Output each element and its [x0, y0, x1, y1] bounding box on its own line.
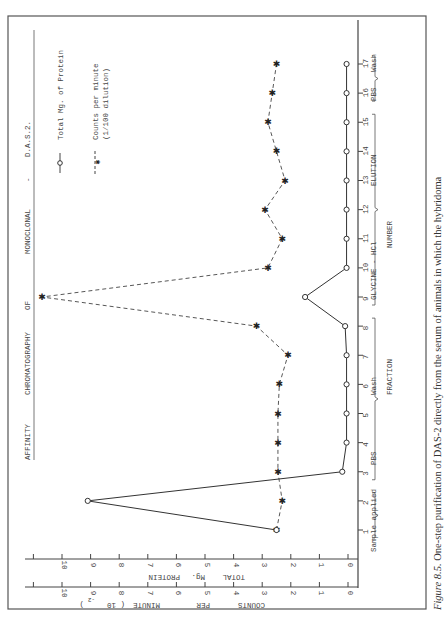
- caption-text: One-step purification of DAS-2 directly …: [432, 176, 443, 563]
- fraction-tick-label: 10: [362, 262, 370, 272]
- cpm-axis-label-per: PER: [196, 601, 210, 609]
- cpm-axis-label-paren-close: ): [79, 601, 84, 609]
- cpm-axis-ticks: 012345678910: [33, 582, 354, 598]
- phase-elution-label: ELUTION: [370, 154, 378, 186]
- cpm-star-marker-icon: ✱: [278, 496, 286, 506]
- cpm-axis-label-counts: COUNTS: [237, 601, 265, 609]
- protein-circle-marker-icon: [344, 411, 349, 416]
- protein-circle-marker-icon: [344, 353, 349, 358]
- protein-circle-marker-icon: [344, 207, 349, 212]
- cpm-star-marker-icon: ✱: [273, 59, 281, 69]
- protein-tick-label: 10: [60, 560, 68, 570]
- protein-tick-label: 8: [117, 563, 125, 568]
- fraction-tick-label: 8: [362, 326, 370, 331]
- fraction-tick-label: 6: [362, 383, 370, 388]
- title-word-affinity: AFFINITY: [24, 423, 32, 460]
- cpm-tick-label: 8: [117, 591, 125, 596]
- title-word-chromatography: CHROMATOGRAPHY: [24, 331, 32, 395]
- figure-frame: [8, 16, 426, 609]
- protein-circle-marker-icon: [344, 440, 349, 445]
- protein-tick-label: 0: [346, 563, 354, 568]
- cpm-star-marker-icon: ✱: [264, 263, 272, 273]
- cpm-line: [42, 64, 288, 530]
- fraction-tick-label: 15: [362, 117, 370, 127]
- title-word-das2: D.A.S.2.: [24, 121, 32, 157]
- protein-circle-marker-icon: [344, 178, 349, 183]
- cpm-tick-label: 10: [60, 588, 68, 598]
- cpm-star-marker-icon: ✱: [253, 321, 261, 331]
- protein-circle-marker-icon: [85, 498, 90, 503]
- fraction-tick-label: 17: [362, 59, 370, 68]
- fraction-axis-label-fraction: FRACTION: [386, 359, 394, 395]
- phase-elution-glycine: GLYCINE - HCl: [370, 241, 378, 300]
- protein-circle-marker-icon: [303, 294, 308, 299]
- cpm-axis-label-paren-open: ( 10: [106, 601, 125, 609]
- protein-tick-label: 9: [89, 563, 97, 568]
- cpm-axis-label-exponent: -2: [87, 596, 95, 603]
- cpm-star-marker-icon: ✱: [261, 205, 269, 215]
- cpm-star-marker-icon: ✱: [281, 176, 289, 186]
- protein-circle-marker-icon: [344, 382, 349, 387]
- cpm-star-marker-icon: ✱: [278, 234, 286, 244]
- protein-circle-marker-icon: [344, 236, 349, 241]
- cpm-star-marker-icon: ✱: [274, 467, 282, 477]
- legend-star-icon: ✱: [93, 159, 102, 164]
- fraction-tick-label: 14: [362, 146, 370, 156]
- cpm-star-marker-icon: ✱: [264, 117, 272, 127]
- legend: Total Mg. of Protein ✱ Counts per minute…: [57, 50, 110, 174]
- fraction-tick-label: 9: [362, 296, 370, 301]
- phase-pbs-wash-2-pbs: PBS: [370, 87, 378, 101]
- phase-pbs-wash-1-pbs: PBS: [370, 451, 378, 465]
- fraction-axis-label-number: NUMBER: [386, 220, 394, 248]
- protein-tick-label: 7: [146, 563, 154, 568]
- legend-circle-icon: [58, 161, 63, 166]
- cpm-tick-label: 5: [203, 591, 211, 596]
- fraction-tick-label: 4: [362, 442, 370, 447]
- protein-tick-label: 3: [260, 563, 268, 568]
- protein-axis-label-total: TOTAL: [222, 573, 245, 581]
- cpm-tick-label: 9: [89, 591, 97, 596]
- protein-axis-ticks: 012345678910: [33, 554, 354, 570]
- title-word-of: OF: [24, 301, 32, 310]
- cpm-star-marker-icon: ✱: [268, 88, 276, 98]
- fraction-tick-label: 12: [362, 205, 370, 214]
- protein-circle-marker-icon: [340, 469, 345, 474]
- phase-pbs-wash-1-wash: Wash: [370, 377, 378, 395]
- protein-circle-marker-icon: [344, 149, 349, 154]
- cpm-tick-label: 1: [317, 591, 325, 596]
- fraction-tick-label: 11: [362, 233, 370, 243]
- fraction-axis-ticks: 1234567891011121314151617: [358, 59, 370, 534]
- protein-circle-marker-icon: [344, 91, 349, 96]
- cpm-tick-label: 3: [260, 591, 268, 596]
- cpm-star-marker-icon: ✱: [274, 438, 282, 448]
- protein-tick-label: 6: [174, 563, 182, 568]
- protein-axis-label-protein: PROTEIN: [148, 573, 180, 581]
- chromatography-chart: 1234567891011121314151617 012345678910 0…: [0, 0, 448, 621]
- cpm-star-marker-icon: ✱: [276, 379, 284, 389]
- cpm-star-marker-icon: ✱: [284, 350, 292, 360]
- cpm-star-marker-icon: ✱: [38, 292, 46, 302]
- cpm-tick-label: 0: [346, 591, 354, 596]
- cpm-tick-label: 4: [232, 591, 240, 596]
- protein-tick-label: 1: [317, 563, 325, 568]
- series-total-protein: [85, 61, 349, 532]
- legend-cpm-label-2: (1/100 dilution): [102, 68, 110, 140]
- protein-axis-label-mg: Mg.: [191, 573, 205, 581]
- cpm-tick-label: 6: [174, 591, 182, 596]
- protein-circle-marker-icon: [344, 265, 349, 270]
- fraction-tick-label: 1: [362, 529, 370, 534]
- title-word-monoclonal: MONOCLONAL: [24, 208, 32, 254]
- figure-caption: Figure 8.5. One-step purification of DAS…: [432, 176, 443, 611]
- protein-tick-label: 5: [203, 563, 211, 568]
- cpm-tick-label: 7: [146, 591, 154, 596]
- fraction-tick-label: 2: [362, 500, 370, 505]
- cpm-star-marker-icon: ✱: [274, 409, 282, 419]
- series-counts-per-minute: ✱✱✱✱✱✱✱✱✱✱✱✱✱✱✱✱✱: [38, 59, 292, 535]
- protein-circle-marker-icon: [343, 324, 348, 329]
- legend-cpm-label-1: Counts per minute: [92, 63, 100, 140]
- protein-tick-label: 2: [289, 563, 297, 568]
- fraction-tick-label: 16: [362, 88, 370, 98]
- cpm-axis-label-minute: MINUTE: [132, 601, 160, 609]
- fraction-tick-label: 7: [362, 355, 370, 360]
- cpm-tick-label: 2: [289, 591, 297, 596]
